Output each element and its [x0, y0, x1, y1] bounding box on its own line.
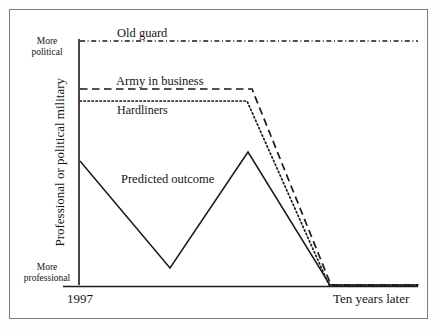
series-line-hardliners [80, 101, 418, 285]
x-axis-start-label: 1997 [67, 292, 93, 307]
series-label-predicted-outcome: Predicted outcome [121, 172, 214, 186]
series-label-army-in-business: Army in business [116, 74, 204, 88]
x-axis-end-label: Ten years later [333, 292, 409, 307]
y-axis-title: Professional or political military [53, 62, 68, 262]
series-line-army-in-business [80, 89, 418, 285]
series-label-hardliners: Hardliners [117, 104, 168, 117]
series-label-old-guard: Old guard [117, 26, 167, 40]
figure-container: More political More professional Profess… [0, 0, 440, 332]
y-axis-top-label: More political [22, 36, 72, 57]
y-axis-bottom-label: More professional [14, 262, 80, 283]
